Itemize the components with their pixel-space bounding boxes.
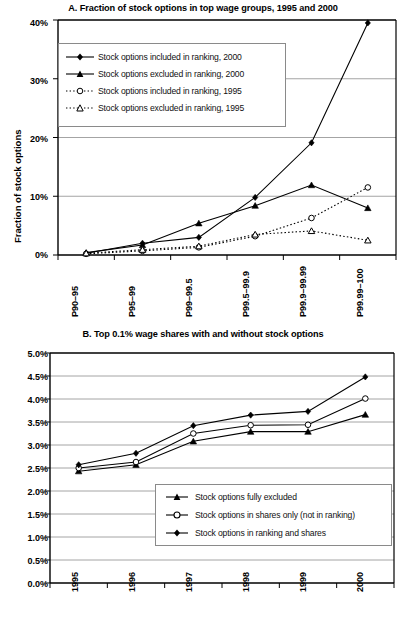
- chart-b-plot-area: [0, 318, 406, 618]
- chart-b-legend: Stock options fully excluded Stock optio…: [155, 484, 392, 546]
- legend-label: Stock options in ranking and shares: [195, 528, 326, 538]
- legend-label: Stock options in shares only (not in ran…: [195, 510, 355, 520]
- legend-item: Stock options fully excluded: [156, 488, 391, 506]
- legend-key-open-triangle-dotted: [65, 102, 95, 114]
- legend-item: Stock options excluded in ranking, 1995: [59, 99, 285, 116]
- legend-label: Stock options excluded in ranking, 1995: [98, 103, 244, 113]
- legend-item: Stock options in shares only (not in ran…: [156, 506, 391, 524]
- legend-key-filled-diamond-solid: [65, 51, 95, 63]
- legend-key-open-circle-dotted: [65, 85, 95, 97]
- legend-item: Stock options excluded in ranking, 2000: [59, 65, 285, 82]
- legend-label: Stock options fully excluded: [195, 492, 297, 502]
- legend-key-filled-diamond-solid: [162, 527, 192, 539]
- legend-key-filled-triangle-solid: [65, 68, 95, 80]
- legend-label: Stock options included in ranking, 1995: [98, 86, 242, 96]
- figure-container: A. Fraction of stock options in top wage…: [0, 0, 406, 618]
- legend-key-open-circle-solid: [162, 509, 192, 521]
- chart-panel-b: B. Top 0.1% wage shares with and without…: [0, 318, 406, 618]
- chart-panel-a: A. Fraction of stock options in top wage…: [0, 0, 406, 318]
- legend-item: Stock options included in ranking, 1995: [59, 82, 285, 99]
- chart-a-legend: Stock options included in ranking, 2000 …: [58, 43, 286, 127]
- legend-label: Stock options excluded in ranking, 2000: [98, 69, 244, 79]
- legend-item: Stock options in ranking and shares: [156, 524, 391, 542]
- legend-label: Stock options included in ranking, 2000: [98, 52, 242, 62]
- legend-key-filled-triangle-solid: [162, 491, 192, 503]
- legend-item: Stock options included in ranking, 2000: [59, 48, 285, 65]
